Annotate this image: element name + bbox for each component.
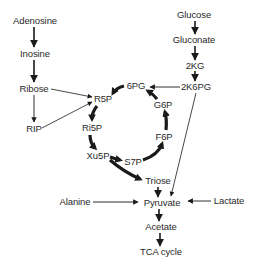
arrow-6pg-r5p xyxy=(113,86,124,93)
node-gluconate: Gluconate xyxy=(173,35,215,45)
node-r5p: R5P xyxy=(94,94,112,104)
node-lactate: Lactate xyxy=(214,196,244,206)
node-alanine: Alanine xyxy=(60,197,91,207)
arrow-2k6pg-pyruvate xyxy=(171,93,196,196)
arrow-s7p-f6p xyxy=(143,144,162,160)
arrow-ri5p-xu5p xyxy=(90,135,95,148)
node-2kg: 2KG xyxy=(186,61,205,71)
arrow-r5p-ri5p xyxy=(92,106,97,119)
node-f6p: F6P xyxy=(155,132,172,142)
node-adenosine: Adenosine xyxy=(13,16,57,26)
node-acetate: Acetate xyxy=(145,222,177,232)
node-xu5p: Xu5P xyxy=(87,151,110,161)
node-ribose: Ribose xyxy=(20,84,49,94)
node-inosine: Inosine xyxy=(20,49,50,59)
node-tca-cycle: TCA cycle xyxy=(140,247,182,257)
arrow-f6p-g6p xyxy=(165,112,166,130)
node-6pg: 6PG xyxy=(127,81,146,91)
arrow-ribose-r5p xyxy=(51,89,92,97)
node-ri5p: Ri5P xyxy=(82,123,102,133)
arrow-g6p-6pg xyxy=(148,91,157,99)
node-g6p: G6P xyxy=(154,100,173,110)
node-triose: Triose xyxy=(145,176,170,186)
node-s7p: S7P xyxy=(124,157,142,167)
node-glucose: Glucose xyxy=(177,10,211,20)
node-pyruvate: Pyruvate xyxy=(144,198,181,208)
node-rip: RIP xyxy=(26,124,42,134)
pathway-arrows xyxy=(0,0,260,274)
node-2k6pg: 2K6PG xyxy=(181,82,211,92)
